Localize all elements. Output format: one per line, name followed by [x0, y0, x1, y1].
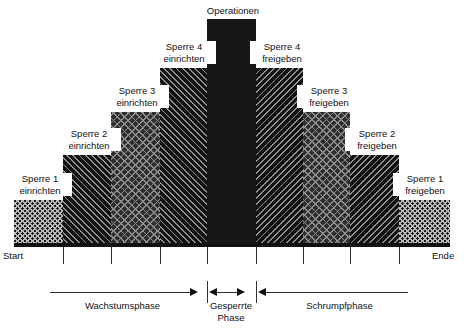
- bar-sperre-4-freigeben: [256, 68, 303, 244]
- phase-line-wachstum: [50, 292, 190, 293]
- bar-label-sperre-1-freigeben: Sperre 1freigeben: [393, 173, 457, 196]
- bar-sperre-2-einrichten: [63, 155, 111, 244]
- phase-label-schrumpfphase: Schrumpfphase: [272, 300, 407, 312]
- bar-label-sperre-2-freigeben: Sperre 2freigeben: [345, 128, 409, 151]
- bar-label-sperre-2-einrichten: Sperre 2einrichten: [57, 128, 121, 151]
- axis-tick: [399, 247, 400, 264]
- phase-arrow-gesperrt-start: [209, 288, 217, 296]
- axis-tick: [350, 247, 351, 264]
- bar-label-operationen: Operationen: [198, 5, 268, 17]
- axis-tick: [256, 247, 257, 264]
- bar-label-sperre-4-freigeben: Sperre 4freigeben: [250, 41, 314, 64]
- axis-baseline: [14, 243, 450, 247]
- phase-label-gesperrte-phase: GesperrtePhase: [196, 300, 266, 323]
- phase-line-gesperrt: [217, 292, 237, 293]
- bar-sperre-3-freigeben: [303, 112, 350, 244]
- phase-arrow-schrumpf-start: [258, 288, 266, 296]
- phase-label-wachstumsphase: Wachstumsphase: [55, 300, 190, 312]
- axis-tick: [303, 247, 304, 264]
- bar-label-sperre-1-einrichten: Sperre 1einrichten: [8, 173, 72, 196]
- bar-label-sperre-3-einrichten: Sperre 3einrichten: [105, 85, 169, 108]
- axis-label-start: Start: [3, 250, 23, 261]
- axis-tick: [111, 247, 112, 264]
- bar-sperre-2-freigeben: [350, 155, 399, 244]
- axis-tick: [207, 247, 208, 264]
- bar-label-sperre-4-einrichten: Sperre 4einrichten: [152, 41, 216, 64]
- axis-label-ende: Ende: [432, 250, 454, 261]
- bar-sperre-1-freigeben: [399, 200, 450, 244]
- axis-tick: [63, 247, 64, 264]
- bar-label-sperre-3-freigeben: Sperre 3freigeben: [297, 85, 361, 108]
- phase-arrow-gesperrt-end: [237, 288, 245, 296]
- phase-line-schrumpf: [266, 292, 408, 293]
- block-diagram: Sperre 1einrichten Sperre 2einrichten Sp…: [0, 0, 471, 328]
- axis-tick: [160, 247, 161, 264]
- bar-sperre-1-einrichten: [14, 200, 63, 244]
- phase-arrow-wachstum-end: [190, 288, 198, 296]
